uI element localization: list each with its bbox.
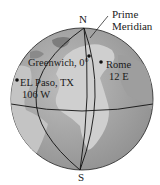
el-paso-label-line1: EL Paso, TX — [20, 78, 74, 89]
greenwich-label: Greenwich, 0° — [28, 58, 89, 69]
el-paso-dot — [15, 78, 19, 82]
rome-label-line2: 12 E — [109, 72, 129, 83]
prime-meridian-label-line2: Meridian — [112, 20, 152, 32]
north-pole-label: N — [79, 14, 87, 25]
rome-dot — [99, 60, 103, 64]
el-paso-label-line2: 106 W — [22, 90, 50, 101]
south-pole-label: S — [78, 172, 84, 183]
prime-meridian-label-line1: Prime — [112, 8, 138, 20]
rome-label-line1: Rome — [106, 60, 131, 71]
